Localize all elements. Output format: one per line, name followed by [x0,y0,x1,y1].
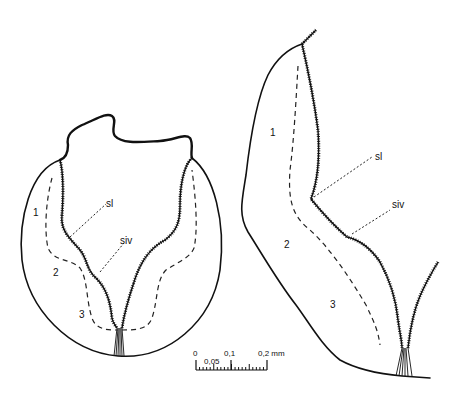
left-fiber-bundle [114,328,124,356]
scale-label-0-2: 0,2 mm [258,349,285,358]
right-sl-label: sl [375,151,382,162]
scale-label-0-1: 0,1 [224,349,236,358]
left-panel: 1 2 3 sl siv [21,115,221,356]
left-zone-label-3: 3 [79,309,85,320]
left-zone-label-2: 2 [53,267,59,278]
right-siv-label: siv [392,199,404,210]
left-sl-label: sl [106,198,113,209]
right-sl-leader [314,157,372,197]
left-outer-outline [21,158,221,356]
scale-label-0-05: 0,05 [204,357,220,366]
right-outer-outline [242,44,430,378]
right-ciliated-border-branch [408,262,438,348]
left-ciliated-border-right [122,158,192,328]
right-zone-label-1: 1 [270,127,276,138]
left-zone-boundary [46,170,196,330]
left-siv-leader [100,243,124,272]
left-zone-label-1: 1 [33,207,39,218]
scale-bar: 0 0,05 0,1 0,2 mm [193,349,285,370]
right-fiber-bundle [396,348,412,376]
right-cilia-main [302,44,402,348]
anatomical-diagram: 1 2 3 sl siv 0 0,05 0,1 0,2 mm [0,0,461,395]
right-top-tuft-line [302,30,316,44]
left-top-rim [60,115,192,160]
scale-label-0: 0 [193,349,198,358]
right-zone-label-3: 3 [330,299,336,310]
right-siv-leader [352,210,390,234]
right-panel: 1 2 3 sl siv [242,30,438,378]
right-ciliated-border-main [302,44,402,348]
left-siv-label: siv [120,235,132,246]
right-cilia-branch [408,262,438,348]
left-sl-leader [70,204,106,237]
right-zone-label-2: 2 [284,239,290,250]
